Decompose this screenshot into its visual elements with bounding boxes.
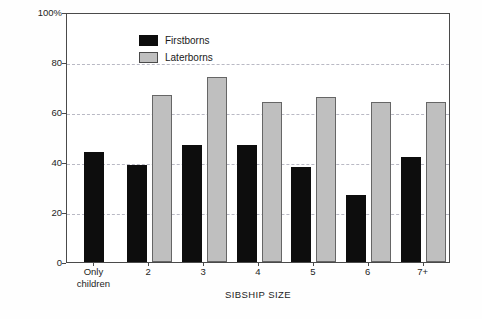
legend-item-firstborns: Firstborns bbox=[139, 33, 257, 48]
x-tick-label-2: 2 bbox=[121, 266, 176, 278]
bar-firstborns-2 bbox=[127, 165, 147, 263]
bar-laterborns-5 bbox=[316, 97, 336, 262]
x-tick-mark-2 bbox=[148, 263, 149, 266]
legend-label-laterborns: Laterborns bbox=[165, 52, 213, 63]
x-tick-mark-6 bbox=[368, 263, 369, 266]
y-tick-label-80: 80 bbox=[18, 58, 62, 68]
y-tick-mark-0 bbox=[62, 263, 66, 264]
x-tick-label-5: 5 bbox=[285, 266, 340, 278]
bar-firstborns-4 bbox=[237, 145, 257, 263]
x-tick-label-4: 4 bbox=[231, 266, 286, 278]
legend-swatch-firstborns bbox=[139, 35, 158, 46]
x-tick-label-7+: 7+ bbox=[395, 266, 450, 278]
y-tick-label-20: 20 bbox=[18, 208, 62, 218]
legend-label-firstborns: Firstborns bbox=[165, 35, 209, 46]
bar-laterborns-4 bbox=[262, 102, 282, 262]
legend-swatch-laterborns bbox=[139, 52, 158, 63]
bar-firstborns-3 bbox=[182, 145, 202, 263]
x-tick-mark-7+ bbox=[423, 263, 424, 266]
x-tick-mark-4 bbox=[258, 263, 259, 266]
bar-laterborns-3 bbox=[207, 77, 227, 262]
x-tick-label-6: 6 bbox=[340, 266, 395, 278]
x-tick-mark-5 bbox=[313, 263, 314, 266]
y-axis-tick-labels: 020406080100% bbox=[12, 13, 62, 263]
bar-firstborns-5 bbox=[291, 167, 311, 262]
bar-laterborns-6 bbox=[371, 102, 391, 262]
bar-firstborns-6 bbox=[346, 195, 366, 263]
legend-item-laterborns: Laterborns bbox=[139, 50, 257, 65]
y-tick-label-60: 60 bbox=[18, 108, 62, 118]
plot-area: Firstborns Laterborns bbox=[66, 13, 450, 263]
x-tick-mark-3 bbox=[203, 263, 204, 266]
bar-firstborns-7+ bbox=[401, 157, 421, 262]
x-tick-label-3: 3 bbox=[176, 266, 231, 278]
x-axis-title: SIBSHIP SIZE bbox=[66, 289, 450, 300]
y-tick-label-0: 0 bbox=[18, 258, 62, 268]
y-tick-label-40: 40 bbox=[18, 158, 62, 168]
bar-chart-figure: PERCENT SUPPORT 020406080100% Firstborns… bbox=[0, 0, 482, 319]
bar-firstborns-Only-children bbox=[84, 152, 104, 262]
bars-layer bbox=[67, 14, 449, 262]
chart-legend: Firstborns Laterborns bbox=[139, 33, 257, 67]
bar-laterborns-7+ bbox=[426, 102, 446, 262]
x-tick-label-Only-children: Onlychildren bbox=[66, 266, 121, 289]
x-tick-mark-Only-children bbox=[93, 263, 94, 266]
y-tick-label-100: 100% bbox=[18, 8, 62, 18]
bar-laterborns-2 bbox=[152, 95, 172, 263]
